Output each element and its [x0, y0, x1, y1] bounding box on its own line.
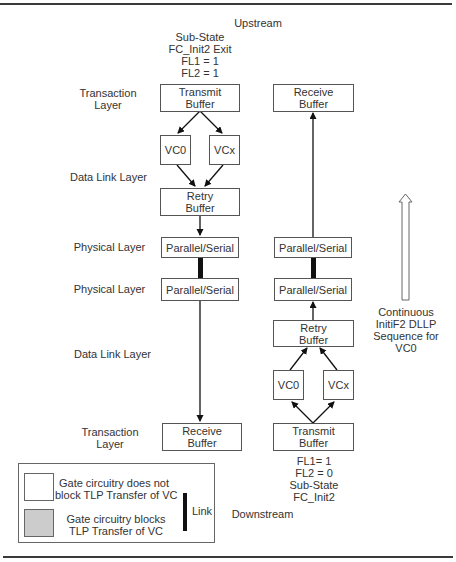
legend-line: TLP Transfer of VC [57, 525, 175, 537]
left-retry-buffer: Retry Buffer [160, 188, 240, 216]
left-vc0: VC0 [160, 135, 191, 165]
right-vcx: VCx [323, 370, 354, 400]
layer-label-data-link-bottom: Data Link Layer [70, 348, 155, 360]
upstream-state: Sub-State FC_Init2 Exit FL1 = 1 FL2 = 1 [150, 31, 250, 79]
box-line: Buffer [185, 98, 214, 110]
box-line: Retry [187, 190, 213, 202]
legend: Gate circuitry does not block TLP Transf… [18, 463, 215, 543]
annotation-line: VC0 [366, 342, 446, 354]
left-transmit-buffer: Transmit Buffer [160, 84, 240, 112]
right-retry-buffer: Retry Buffer [273, 320, 354, 347]
label-line: Transaction [68, 87, 148, 99]
blocked-gate-label: Gate circuitry blocks TLP Transfer of VC [57, 513, 175, 537]
box-line: Retry [300, 322, 326, 334]
right-parallel-serial-bottom: Parallel/Serial [274, 278, 352, 301]
box-line: Buffer [299, 334, 328, 346]
left-parallel-serial-bottom: Parallel/Serial [161, 278, 239, 301]
layer-label-transaction-top: Transaction Layer [68, 87, 148, 111]
legend-line: Gate circuitry does not [55, 477, 173, 489]
legend-line: Gate circuitry blocks [57, 513, 175, 525]
hollow-up-arrow-icon [399, 194, 412, 300]
layer-label-transaction-bottom: Transaction Layer [70, 426, 150, 450]
left-receive-buffer: Receive Buffer [162, 423, 242, 451]
open-gate-swatch [24, 473, 54, 501]
box-line: Buffer [185, 202, 214, 214]
box-line: Buffer [187, 437, 216, 449]
left-parallel-serial-top: Parallel/Serial [161, 237, 239, 258]
layer-label-data-link-top: Data Link Layer [66, 171, 151, 183]
annotation-line: Sequence for [366, 330, 446, 342]
box-line: Transmit [292, 425, 334, 437]
box-line: Receive [294, 86, 334, 98]
upstream-label: Upstream [228, 17, 288, 29]
blocked-gate-swatch [24, 509, 54, 537]
link-label: Link [191, 505, 213, 517]
box-line: Buffer [299, 437, 328, 449]
state-line: FL2 = 1 [150, 67, 250, 79]
right-vc0: VC0 [273, 370, 304, 400]
downstream-state: FL1= 1 FL2 = 0 Sub-State FC_Init2 [274, 455, 354, 503]
left-vcx: VCx [209, 135, 240, 165]
box-line: Buffer [299, 98, 328, 110]
state-line: Sub-State [274, 479, 354, 491]
state-line: Sub-State [150, 31, 250, 43]
downstream-label: Downstream [230, 508, 295, 520]
open-gate-label: Gate circuitry does not block TLP Transf… [55, 477, 173, 501]
annotation-line: InitiF2 DLLP [366, 318, 446, 330]
right-receive-buffer: Receive Buffer [273, 84, 354, 112]
box-line: Receive [182, 425, 222, 437]
right-transmit-buffer: Transmit Buffer [273, 423, 354, 451]
layer-label-physical-2: Physical Layer [72, 283, 147, 295]
legend-line: block TLP Transfer of VC [55, 489, 173, 501]
state-line: FL2 = 0 [274, 467, 354, 479]
box-line: Transmit [179, 86, 221, 98]
label-line: Transaction [70, 426, 150, 438]
label-line: Layer [70, 438, 150, 450]
layer-label-physical-1: Physical Layer [72, 241, 147, 253]
state-line: FL1 = 1 [150, 55, 250, 67]
dllp-sequence-annotation: Continuous InitiF2 DLLP Sequence for VC0 [366, 306, 446, 354]
annotation-line: Continuous [366, 306, 446, 318]
state-line: FC_Init2 Exit [150, 43, 250, 55]
state-line: FC_Init2 [274, 491, 354, 503]
state-line: FL1= 1 [274, 455, 354, 467]
link-swatch-icon [183, 493, 187, 531]
label-line: Layer [68, 99, 148, 111]
right-parallel-serial-top: Parallel/Serial [274, 237, 352, 258]
